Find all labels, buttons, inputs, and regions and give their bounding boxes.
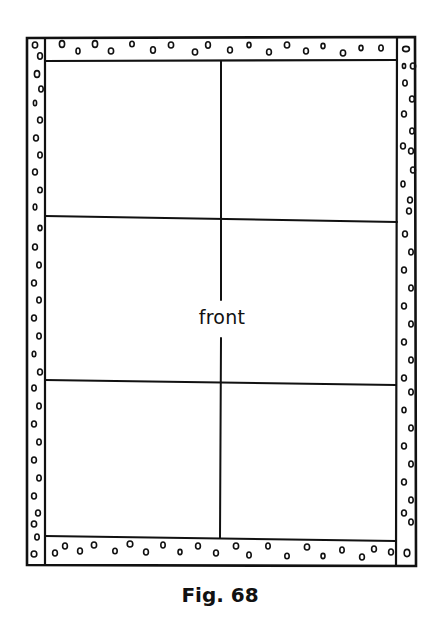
figure-caption: Fig. 68 <box>140 583 300 607</box>
front-label: front <box>172 306 272 328</box>
pebble-dots <box>31 41 415 560</box>
vertical-divider <box>220 61 221 538</box>
right-strip-edge <box>396 38 397 566</box>
